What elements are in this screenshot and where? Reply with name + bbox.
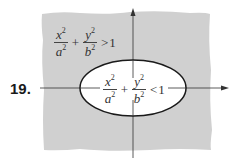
problem-number: 19.	[10, 80, 31, 97]
fraction-y2-b2: y2 b2	[83, 27, 97, 58]
inner-inequality: x2 a2 + y2 b2 < 1	[102, 74, 165, 105]
fraction-y2-b2: y2 b2	[132, 74, 146, 105]
outer-inequality: x2 a2 + y2 b2 > 1	[53, 27, 116, 58]
x-axis-arrow-icon	[221, 86, 229, 91]
fraction-x2-a2: x2 a2	[54, 27, 68, 58]
fraction-x2-a2: x2 a2	[103, 74, 117, 105]
